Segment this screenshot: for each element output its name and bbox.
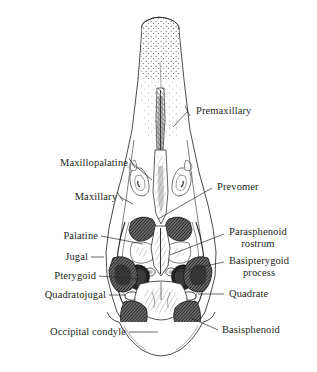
quadrate-right [184,257,212,292]
label-pterygoid-text: Pterygoid [54,270,96,281]
label-basisphenoid-text: Basisphenoid [222,324,280,335]
label-maxillopalatine: Maxillopalatine [0,157,128,169]
label-basisphenoid: Basisphenoid [222,324,280,336]
label-occipital-condyle-text: Occipital condyle [50,326,126,337]
label-prevomer-text: Prevomer [217,181,259,192]
label-jugal: Jugal [0,251,88,263]
label-basipterygoid-process: Basipterygoid process [229,255,289,279]
label-prevomer: Prevomer [217,181,259,193]
label-quadratojugal: Quadratojugal [0,289,106,301]
label-maxillary: Maxillary [0,191,117,203]
label-quadrate-text: Quadrate [229,288,268,299]
label-maxillopalatine-text: Maxillopalatine [60,157,128,168]
label-premaxillary-text: Premaxillary [196,105,251,116]
label-palatine: Palatine [0,230,98,242]
label-parasphenoid-rostrum: Parasphenoid rostrum [229,226,287,250]
label-maxillary-text: Maxillary [75,191,117,202]
label-basipterygoid-process-line2: process [229,267,289,279]
label-pterygoid: Pterygoid [0,270,96,282]
label-parasphenoid-rostrum-line1: Parasphenoid [229,226,287,237]
bird-skull-ventral-illustration [0,0,317,372]
label-quadrate: Quadrate [229,288,268,300]
label-palatine-text: Palatine [63,230,98,241]
label-parasphenoid-rostrum-line2: rostrum [229,238,287,250]
label-occipital-condyle: Occipital condyle [0,326,126,338]
quadrate-left [109,257,137,292]
label-basipterygoid-process-line1: Basipterygoid [229,255,289,266]
label-quadratojugal-text: Quadratojugal [45,289,106,300]
label-jugal-text: Jugal [65,251,88,262]
skull-drawing [91,17,224,356]
label-premaxillary: Premaxillary [196,105,251,117]
figure-root: Premaxillary Maxillopalatine Maxillary P… [0,0,317,372]
